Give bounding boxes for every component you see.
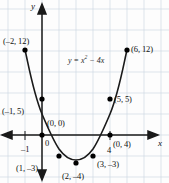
point-5-5	[107, 96, 112, 101]
point-label-3-neg3: (3, –3)	[97, 160, 119, 169]
point-label-1-neg3: (1, –3)	[16, 164, 38, 173]
point-4-0	[107, 132, 112, 137]
point-0-0	[39, 132, 44, 137]
point-6-12	[124, 47, 129, 52]
tick-label-x-4: 4	[107, 146, 111, 155]
point-label-2-neg4: (2, –4)	[62, 172, 84, 181]
equation-label: y = x2 − 4x	[68, 57, 104, 65]
point-neg2-12	[22, 47, 27, 52]
parabola-curve-and-points	[0, 0, 169, 183]
point-label-4-0: (0, 4)	[113, 140, 131, 149]
graph-figure: y x y = x2 − 4x (–2, 12) (–1, 5) (0, 0) …	[0, 0, 169, 183]
equation-lhs: y = x	[68, 56, 85, 65]
x-axis-label: x	[158, 139, 162, 148]
parabola-path	[25, 50, 127, 160]
point-2-neg4	[73, 160, 78, 165]
equation-rhs: − 4x	[87, 56, 104, 65]
point-label-6-12: (6, 12)	[131, 45, 153, 54]
tick-label-origin: 0	[45, 139, 49, 148]
point-label-5-5: (5, 5)	[114, 95, 132, 104]
point-label-neg2-12: (–2, 12)	[3, 37, 29, 46]
y-axis-label: y	[31, 2, 35, 11]
point-1-neg3	[56, 153, 61, 158]
point-3-neg3	[90, 153, 95, 158]
point-neg1-5	[39, 96, 44, 101]
point-label-0-0: (0, 0)	[47, 119, 65, 128]
tick-label-x-neg1: –1	[21, 145, 30, 154]
point-label-neg1-5: (–1, 5)	[2, 107, 24, 116]
